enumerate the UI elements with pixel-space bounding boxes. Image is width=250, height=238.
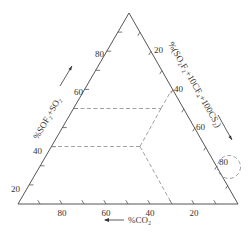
svg-text:40: 40 bbox=[33, 146, 43, 156]
left-tick-labels: 20 40 60 80 bbox=[11, 49, 105, 194]
svg-text:80: 80 bbox=[219, 157, 229, 167]
lower-diagonal bbox=[140, 147, 172, 205]
svg-text:60: 60 bbox=[74, 87, 84, 97]
bottom-axis-title: %CO₂ bbox=[128, 215, 151, 225]
bottom-axis-ticks bbox=[38, 200, 216, 204]
svg-text:80: 80 bbox=[58, 208, 68, 218]
svg-text:60: 60 bbox=[102, 208, 112, 218]
svg-text:80: 80 bbox=[95, 49, 105, 59]
svg-text:20: 20 bbox=[190, 208, 200, 218]
svg-text:40: 40 bbox=[174, 84, 184, 94]
left-axis-title-group: %SOF₂+SO₂ bbox=[31, 66, 72, 141]
right-tick-labels: 20 40 60 80 bbox=[154, 45, 229, 167]
bottom-axis-title-group: %CO₂ bbox=[104, 215, 151, 225]
middle-diagonal bbox=[140, 109, 161, 147]
svg-text:20: 20 bbox=[154, 45, 164, 55]
svg-text:20: 20 bbox=[11, 184, 21, 194]
ternary-diagram: 20 40 60 80 20 40 60 80 80 60 40 20 %SOF… bbox=[0, 0, 250, 238]
upper-diagonal bbox=[161, 91, 171, 109]
svg-text:60: 60 bbox=[196, 122, 206, 132]
